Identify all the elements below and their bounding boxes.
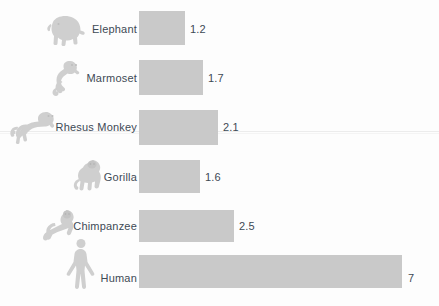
bar <box>139 110 218 145</box>
value-label: 7 <box>408 272 414 284</box>
category-label: Rhesus Monkey <box>56 121 137 133</box>
bar <box>139 210 234 242</box>
elephant-icon <box>43 14 91 44</box>
category-label: Gorilla <box>104 171 137 183</box>
scan-artifact-line-secondary <box>0 133 439 134</box>
marmoset-icon <box>50 58 86 96</box>
gorilla-icon <box>72 158 104 194</box>
category-label: Elephant <box>92 23 137 35</box>
bar <box>139 11 185 45</box>
category-label: Human <box>101 272 137 284</box>
value-label: 1.7 <box>208 72 224 84</box>
bar <box>139 60 203 95</box>
human-icon <box>62 238 100 296</box>
bar <box>139 255 402 288</box>
value-label: 1.2 <box>190 23 206 35</box>
value-label: 2.5 <box>239 220 255 232</box>
category-label: Marmoset <box>87 72 138 84</box>
bar <box>139 160 200 193</box>
value-label: 1.6 <box>205 171 221 183</box>
rhesus-monkey-icon <box>10 108 62 142</box>
value-label: 2.1 <box>223 121 239 133</box>
category-label: Chimpanzee <box>73 220 137 232</box>
bar-chart: Elephant 1.2 Marmoset 1.7 <box>0 0 439 306</box>
